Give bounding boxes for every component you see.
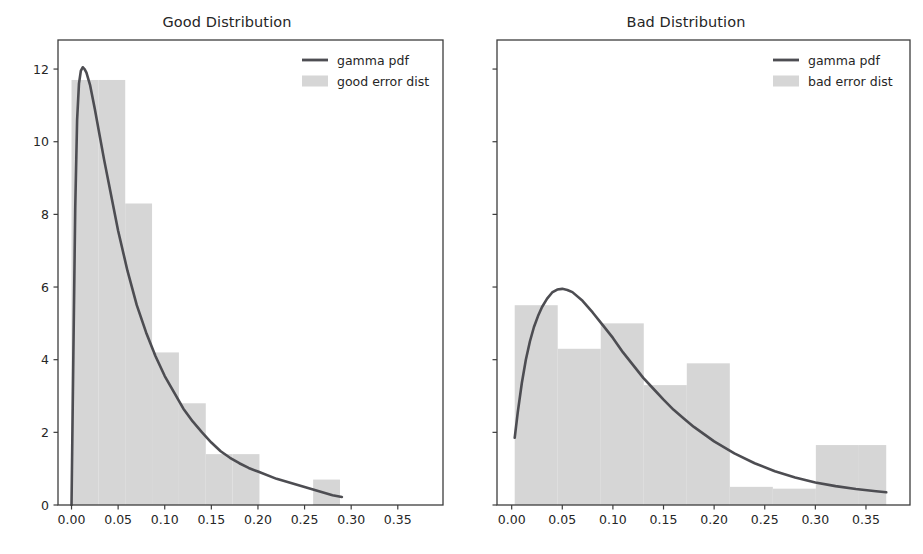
x-tick-label: 0.10 <box>599 512 627 527</box>
histogram-series <box>515 305 886 505</box>
legend-patch-marker <box>302 76 328 87</box>
histogram-bar <box>179 403 206 505</box>
histogram-bar <box>816 445 859 505</box>
x-tick-label: 0.05 <box>548 512 576 527</box>
plot-panel-good: Good Distribution 0.000.050.100.150.200.… <box>0 0 462 554</box>
legend[interactable]: gamma pdfbad error dist <box>773 53 893 89</box>
x-tick-label: 0.15 <box>650 512 678 527</box>
x-tick-label: 0.25 <box>291 512 319 527</box>
y-tick-label: 8 <box>41 207 49 222</box>
x-tick-label: 0.05 <box>104 512 132 527</box>
x-tick-label: 0.00 <box>58 512 86 527</box>
histogram-series <box>72 80 340 505</box>
legend-patch-marker <box>773 76 799 87</box>
y-tick-label: 2 <box>41 425 49 440</box>
histogram-bar <box>687 363 730 505</box>
x-tick-label: 0.20 <box>244 512 272 527</box>
y-tick-label: 12 <box>33 62 49 77</box>
y-axis <box>493 69 498 505</box>
plot-panel-bad: Bad Distribution 0.000.050.100.150.200.2… <box>461 0 923 554</box>
histogram-bar <box>859 445 886 505</box>
x-tick-label: 0.00 <box>498 512 526 527</box>
histogram-bar <box>558 349 601 505</box>
plot-area-bad: 0.000.050.100.150.200.250.300.35gamma pd… <box>461 0 923 554</box>
y-tick-label: 10 <box>33 134 49 149</box>
legend[interactable]: gamma pdfgood error dist <box>302 53 429 89</box>
x-tick-label: 0.30 <box>337 512 365 527</box>
y-tick-label: 0 <box>41 498 49 513</box>
y-axis: 024681012 <box>33 62 58 513</box>
x-tick-label: 0.15 <box>197 512 225 527</box>
x-tick-label: 0.35 <box>384 512 412 527</box>
legend-label: gamma pdf <box>337 53 409 68</box>
x-tick-label: 0.25 <box>751 512 779 527</box>
histogram-bar <box>206 454 233 505</box>
x-tick-label: 0.30 <box>801 512 829 527</box>
histogram-bar <box>773 489 816 505</box>
x-axis: 0.000.050.100.150.200.250.300.35 <box>58 505 412 527</box>
histogram-bar <box>730 487 773 505</box>
histogram-bar <box>515 305 558 505</box>
y-tick-label: 6 <box>41 280 49 295</box>
figure-canvas: Good Distribution 0.000.050.100.150.200.… <box>0 0 923 554</box>
legend-label: gamma pdf <box>808 53 880 68</box>
x-tick-label: 0.20 <box>700 512 728 527</box>
x-tick-label: 0.10 <box>151 512 179 527</box>
x-tick-label: 0.35 <box>852 512 880 527</box>
plot-area-good: 0.000.050.100.150.200.250.300.3502468101… <box>0 0 462 554</box>
legend-label: bad error dist <box>808 74 893 89</box>
x-axis: 0.000.050.100.150.200.250.300.35 <box>498 505 880 527</box>
y-tick-label: 4 <box>41 352 49 367</box>
histogram-bar <box>125 203 152 505</box>
legend-label: good error dist <box>337 74 429 89</box>
